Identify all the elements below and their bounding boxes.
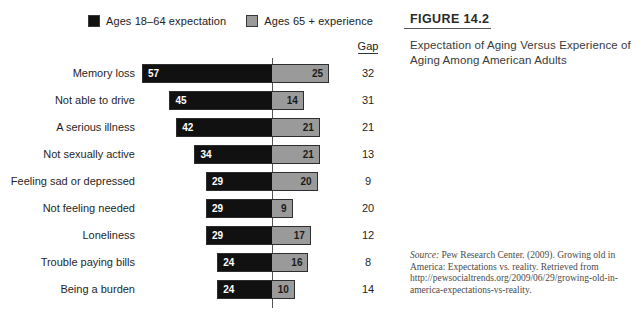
gap-value: 20 — [348, 195, 388, 222]
bar-value-experience: 10 — [273, 284, 294, 295]
bar-row: Trouble paying bills24168 — [0, 249, 396, 276]
bar-expectation: 45 — [169, 91, 272, 110]
bar-expectation: 34 — [194, 145, 272, 164]
bar-value-expectation: 45 — [170, 95, 191, 106]
bar-expectation: 29 — [206, 172, 272, 191]
bar-experience: 17 — [272, 226, 311, 245]
bar-experience: 25 — [272, 64, 329, 83]
bar-value-experience: 25 — [307, 68, 328, 79]
bar-row: Loneliness291712 — [0, 222, 396, 249]
bar-value-experience: 9 — [276, 203, 292, 214]
gap-value: 14 — [348, 276, 388, 303]
bar-row: Memory loss572532 — [0, 60, 396, 87]
bar-value-experience: 21 — [298, 122, 319, 133]
legend-label-experience: Ages 65 + experience — [264, 15, 373, 27]
bar-rows: Memory loss572532Not able to drive451431… — [0, 60, 396, 303]
bar-value-expectation: 42 — [177, 122, 198, 133]
bar-value-expectation: 29 — [207, 176, 228, 187]
source-label: Source: — [410, 250, 439, 260]
legend-swatch-icon-experience — [246, 15, 258, 27]
bar-group: 299 — [0, 195, 396, 222]
bar-experience: 20 — [272, 172, 318, 191]
bar-value-experience: 14 — [282, 95, 303, 106]
bar-row: A serious illness422121 — [0, 114, 396, 141]
bar-group: 5725 — [0, 60, 396, 87]
bar-group: 3421 — [0, 141, 396, 168]
bar-value-expectation: 29 — [207, 230, 228, 241]
chart-legend: Ages 18–64 expectation Ages 65 + experie… — [88, 15, 373, 27]
bar-expectation: 24 — [217, 253, 272, 272]
bar-value-expectation: 24 — [218, 284, 239, 295]
bar-expectation: 42 — [176, 118, 272, 137]
bar-value-experience: 21 — [298, 149, 319, 160]
bar-group: 2416 — [0, 249, 396, 276]
bar-value-expectation: 57 — [143, 68, 164, 79]
bar-experience: 10 — [272, 280, 295, 299]
bar-value-expectation: 29 — [207, 203, 228, 214]
bar-row: Not sexually active342113 — [0, 141, 396, 168]
bar-value-expectation: 24 — [218, 257, 239, 268]
bar-experience: 14 — [272, 91, 304, 110]
bar-group: 4514 — [0, 87, 396, 114]
chart-panel: Ages 18–64 expectation Ages 65 + experie… — [0, 0, 396, 326]
bar-value-experience: 20 — [295, 176, 316, 187]
gap-value: 31 — [348, 87, 388, 114]
bar-expectation: 29 — [206, 226, 272, 245]
gap-column-header-label: Gap — [358, 40, 379, 54]
gap-value: 32 — [348, 60, 388, 87]
gap-value: 12 — [348, 222, 388, 249]
bar-expectation: 29 — [206, 199, 272, 218]
bar-group: 2920 — [0, 168, 396, 195]
bar-expectation: 57 — [142, 64, 272, 83]
bar-row: Being a burden241014 — [0, 276, 396, 303]
figure-number: FIGURE 14.2 — [404, 12, 491, 29]
figure-title: Expectation of Aging Versus Experience o… — [410, 38, 632, 68]
bar-row: Not able to drive451431 — [0, 87, 396, 114]
source-text: Pew Research Center. (2009). Growing old… — [410, 250, 618, 295]
legend-label-expectation: Ages 18–64 expectation — [106, 15, 226, 27]
gap-column-header: Gap — [348, 40, 388, 54]
bar-experience: 9 — [272, 199, 293, 218]
bar-value-experience: 17 — [289, 230, 310, 241]
gap-value: 9 — [348, 168, 388, 195]
bar-group: 2410 — [0, 276, 396, 303]
caption-panel: FIGURE 14.2 Expectation of Aging Versus … — [400, 0, 636, 326]
bar-expectation: 24 — [217, 280, 272, 299]
bar-row: Feeling sad or depressed29209 — [0, 168, 396, 195]
gap-value: 21 — [348, 114, 388, 141]
legend-item-expectation: Ages 18–64 expectation — [88, 15, 226, 27]
bar-value-experience: 16 — [286, 257, 307, 268]
gap-value: 8 — [348, 249, 388, 276]
bar-group: 2917 — [0, 222, 396, 249]
source-note: Source: Pew Research Center. (2009). Gro… — [410, 250, 626, 296]
bar-row: Not feeling needed29920 — [0, 195, 396, 222]
bar-experience: 16 — [272, 253, 308, 272]
legend-item-experience: Ages 65 + experience — [246, 15, 373, 27]
bar-value-expectation: 34 — [195, 149, 216, 160]
bar-experience: 21 — [272, 145, 320, 164]
bar-group: 4221 — [0, 114, 396, 141]
bar-experience: 21 — [272, 118, 320, 137]
gap-value: 13 — [348, 141, 388, 168]
legend-swatch-icon-expectation — [88, 15, 100, 27]
